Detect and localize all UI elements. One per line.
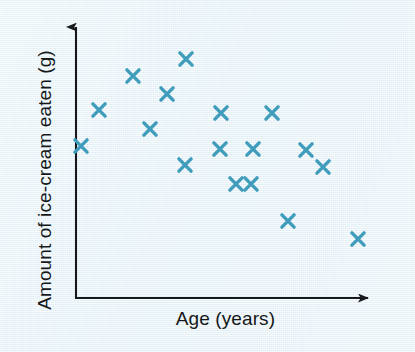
scatter-plot-figure: Age (years) Amount of ice-cream eaten (g… — [0, 0, 415, 352]
data-point-marker — [352, 233, 364, 245]
data-point-marker — [214, 143, 226, 155]
data-point-marker — [144, 123, 156, 135]
data-point-marker — [215, 107, 227, 119]
data-point-marker — [317, 161, 329, 173]
data-point-marker — [179, 159, 191, 171]
data-point-marker — [247, 143, 259, 155]
y-axis-label: Amount of ice-cream eaten (g) — [30, 0, 60, 352]
data-point-marker — [161, 88, 173, 100]
data-point-marker — [282, 215, 294, 227]
data-point-marker — [93, 104, 105, 116]
data-point-marker — [230, 178, 242, 190]
data-point-marker — [180, 53, 192, 65]
data-point-marker — [245, 178, 257, 190]
data-markers-group — [75, 53, 364, 245]
data-point-marker — [300, 144, 312, 156]
data-point-marker — [127, 70, 139, 82]
data-point-marker — [266, 107, 278, 119]
plot-canvas — [0, 0, 415, 352]
x-axis-label: Age (years) — [0, 308, 415, 330]
